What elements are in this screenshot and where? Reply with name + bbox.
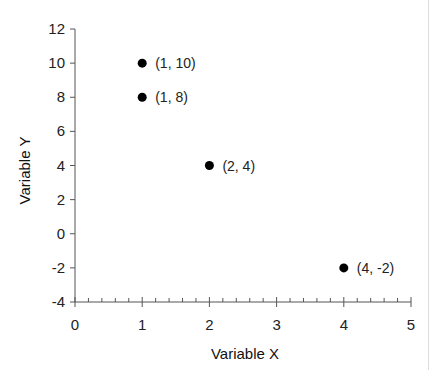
- y-tick-label: 6: [57, 122, 65, 139]
- x-tick-label: 1: [138, 316, 146, 333]
- x-axis-title: Variable X: [211, 345, 279, 362]
- data-point-label: (4, -2): [357, 260, 394, 276]
- data-point-marker: [339, 263, 348, 272]
- y-tick-label: 10: [48, 54, 65, 71]
- x-tick-label: 4: [340, 316, 348, 333]
- y-tick-label: 8: [57, 88, 65, 105]
- data-point-marker: [138, 59, 147, 68]
- x-tick-label: 2: [205, 316, 213, 333]
- data-point-label: (1, 8): [155, 89, 188, 105]
- axes: -4-2024681012012345: [48, 20, 415, 333]
- y-tick-label: -4: [52, 293, 65, 310]
- data-point-marker: [205, 161, 214, 170]
- data-point-marker: [138, 93, 147, 102]
- x-tick-label: 3: [272, 316, 280, 333]
- y-tick-label: -2: [52, 259, 65, 276]
- data-point-label: (1, 10): [155, 55, 195, 71]
- scatter-chart: -4-2024681012012345 (1, 10)(1, 8)(2, 4)(…: [0, 0, 442, 381]
- data-point-label: (2, 4): [222, 158, 255, 174]
- y-tick-label: 4: [57, 157, 65, 174]
- y-axis-title: Variable Y: [16, 137, 33, 205]
- y-tick-label: 2: [57, 191, 65, 208]
- y-tick-label: 0: [57, 225, 65, 242]
- y-tick-label: 12: [48, 20, 65, 37]
- right-edge-divider: [428, 0, 429, 370]
- data-points: (1, 10)(1, 8)(2, 4)(4, -2): [138, 55, 394, 276]
- x-tick-label: 0: [71, 316, 79, 333]
- x-tick-label: 5: [407, 316, 415, 333]
